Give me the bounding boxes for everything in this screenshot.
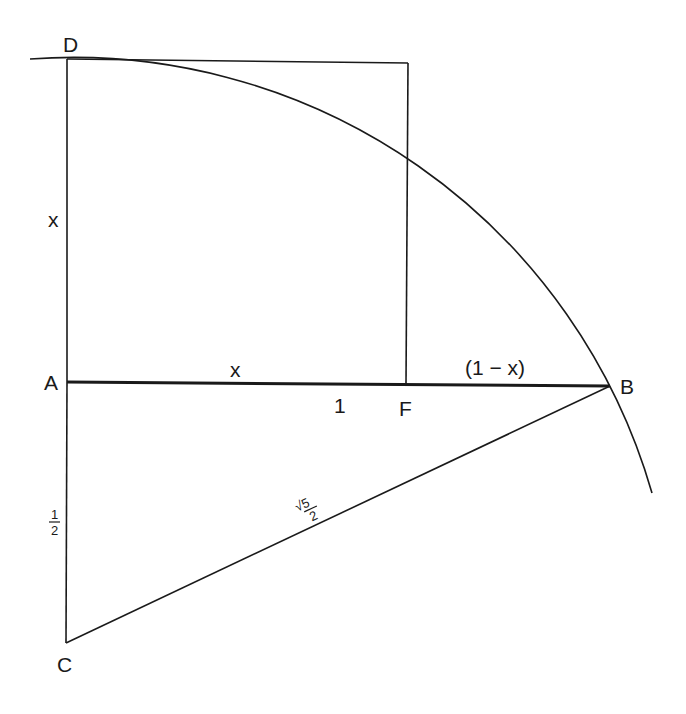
length-label-ad: x [48,208,59,231]
length-label-cb: √5 2 [292,492,323,528]
segment-ab [67,382,610,386]
point-label-b: B [620,375,634,398]
length-label-ab: 1 [334,394,346,417]
length-label-fb: (1 − x) [465,356,525,379]
square-top-edge [67,59,408,63]
segment-ac [66,382,67,643]
point-label-f: F [399,397,412,420]
svg-text:1: 1 [51,507,58,522]
point-label-d: D [63,33,78,56]
length-label-af: x [230,358,241,381]
svg-text:2: 2 [51,523,58,538]
arc-centered-at-c [30,57,652,493]
point-label-a: A [44,371,58,394]
segment-cb [66,386,610,643]
golden-ratio-diagram: D A F B C x x 1 (1 − x) 1 2 √5 2 [0,0,686,714]
point-label-c: C [57,653,72,676]
svg-text:2: 2 [307,508,320,525]
square-right-edge-f [406,63,408,384]
length-label-ac: 1 2 [49,507,60,538]
